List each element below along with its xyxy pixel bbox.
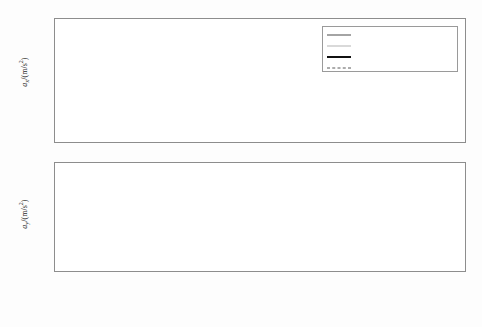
y-axis-label-ay: ay/(m/s2) (18, 184, 30, 244)
chart-panel-ay (54, 162, 466, 272)
legend-item (326, 40, 454, 51)
chart-legend (322, 26, 458, 72)
legend-item (326, 51, 454, 62)
y-axis-label-ax: ax/(m/s2) (18, 42, 30, 102)
plot-area-ay (54, 162, 466, 272)
legend-line-response-sim-icon (326, 41, 352, 51)
legend-line-response-release-icon (326, 63, 352, 73)
legend-item (326, 62, 454, 73)
figure-container: ax/(m/s2) ay/(m/s2) (0, 0, 482, 327)
legend-line-command-sim-icon (326, 30, 352, 40)
legend-line-command-release-icon (326, 52, 352, 62)
legend-item (326, 29, 454, 40)
